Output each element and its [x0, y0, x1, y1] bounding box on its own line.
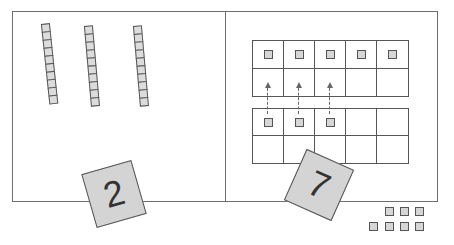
frame-cell [284, 109, 315, 136]
card-value: 7 [301, 162, 336, 209]
loose-cube [415, 222, 424, 231]
frame-cell [253, 109, 284, 136]
unit-cube [357, 50, 366, 59]
arrowhead-up-icon [296, 82, 302, 88]
move-up-arrow-3 [329, 88, 330, 114]
unit-cube [295, 118, 304, 127]
loose-cube [400, 222, 409, 231]
frame-cell [284, 41, 315, 69]
frame-cell [377, 136, 408, 163]
loose-cube [400, 207, 409, 216]
unit-cube [326, 50, 335, 59]
move-up-arrow-2 [298, 88, 299, 114]
arrowhead-up-icon [327, 82, 333, 88]
frame-cell [377, 69, 408, 97]
loose-cube [415, 207, 424, 216]
frame-cell [377, 41, 408, 69]
frame-cell [346, 136, 377, 163]
unit-cube [326, 118, 335, 127]
frame-cell [346, 69, 377, 97]
unit-cube [264, 50, 273, 59]
card-value: 2 [99, 171, 130, 217]
top-ten-frame [252, 40, 409, 97]
frame-cell [346, 41, 377, 69]
arrowhead-up-icon [265, 82, 271, 88]
frame-cell [253, 136, 284, 163]
loose-cube [385, 222, 394, 231]
unit-cube [388, 50, 397, 59]
frame-cell [315, 41, 346, 69]
unit-cube [264, 118, 273, 127]
unit-cube [295, 50, 304, 59]
frame-cell [346, 109, 377, 136]
move-up-arrow-1 [267, 88, 268, 114]
frame-cell [377, 109, 408, 136]
loose-cube [369, 222, 378, 231]
frame-cell [315, 109, 346, 136]
frame-cell [253, 41, 284, 69]
loose-cube [385, 207, 394, 216]
bottom-ten-frame [252, 108, 409, 164]
